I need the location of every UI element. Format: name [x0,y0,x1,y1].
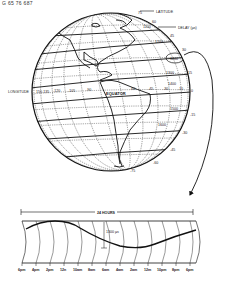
svg-text:2pm: 2pm [46,268,53,272]
hour-arcs [36,221,193,263]
svg-text:-60: -60 [130,87,135,91]
svg-text:10pm: 10pm [157,268,166,272]
svg-text:12m: 12m [144,268,151,272]
svg-text:1600: 1600 [158,123,166,127]
bottom-ticks [22,263,190,266]
svg-text:30: 30 [182,48,186,52]
svg-text:0: 0 [191,89,193,93]
svg-text:-90: -90 [86,88,91,92]
svg-text:-105: -105 [68,89,75,93]
svg-text:45: 45 [170,34,174,38]
svg-text:-15: -15 [178,87,183,91]
svg-text:12n: 12n [60,268,66,272]
globe: 75 60 45 30 15 0 -15 -30 -45 -60 -75 110… [19,0,202,185]
svg-text:10am: 10am [73,268,82,272]
span-label: 24 HOURS [97,211,116,215]
svg-text:1500: 1500 [170,107,178,111]
svg-text:6pm: 6pm [18,268,25,272]
svg-text:6pm: 6pm [186,268,193,272]
svg-text:1100: 1100 [143,25,151,29]
latitude-label: LATITUDE [156,10,174,14]
delay-label: DELAY (µs) [178,26,197,30]
svg-text:1200: 1200 [155,40,163,44]
svg-text:75: 75 [138,11,142,15]
svg-text:1400: 1400 [168,82,176,86]
svg-text:-15: -15 [190,113,195,117]
svg-text:-45: -45 [170,148,175,152]
timeline-chart: 24 HOURS [18,209,200,272]
svg-text:8pm: 8pm [172,268,179,272]
svg-text:150-135: 150-135 [36,90,49,94]
svg-text:-120: -120 [53,89,60,93]
diagram-canvas: 75 60 45 30 15 0 -15 -30 -45 -60 -75 110… [0,0,225,288]
svg-text:-60: -60 [153,161,158,165]
equator-label: EQUATOR [106,91,126,96]
svg-text:8am: 8am [88,268,95,272]
svg-text:1300: 1300 [166,71,174,75]
svg-text:60: 60 [152,20,156,24]
svg-text:4am: 4am [116,268,123,272]
svg-text:-45: -45 [148,87,153,91]
svg-text:2am: 2am [130,268,137,272]
svg-text:-75: -75 [130,169,135,173]
svg-text:6am: 6am [102,268,109,272]
svg-text:4pm: 4pm [32,268,39,272]
amplitude-label: 1300 µs [106,230,119,234]
time-tick-labels: 6pm 4pm 2pm 12n 10am 8am 6am 4am 2am 12m… [18,268,193,272]
svg-text:-30: -30 [163,87,168,91]
svg-text:1200: 1200 [170,57,178,61]
longitude-label: LONGITUDE [8,90,30,94]
svg-text:-30: -30 [182,131,187,135]
svg-text:15: 15 [188,71,192,75]
